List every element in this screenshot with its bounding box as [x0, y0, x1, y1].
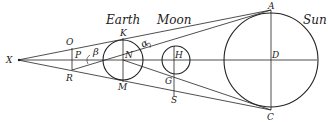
label-earth: Earth [105, 13, 140, 27]
label-sun: Sun [303, 13, 327, 27]
label-k: K [119, 28, 128, 38]
point-x-marker [18, 59, 20, 61]
label-r: R [65, 73, 73, 83]
upper-tangent-line [18, 10, 271, 60]
label-n: N [124, 50, 134, 60]
label-d: D [271, 50, 279, 60]
label-m: M [117, 82, 128, 92]
label-p: P [74, 50, 82, 60]
label-beta: β [92, 46, 99, 57]
diagram-canvas: X O P R β α K N M H G S A D C Earth Moon… [0, 0, 328, 122]
beta-angle-arc [87, 55, 90, 64]
label-c: C [267, 112, 274, 122]
label-o: O [66, 37, 74, 47]
label-s: S [171, 95, 177, 105]
label-x: X [5, 55, 13, 65]
label-h: H [174, 50, 183, 60]
label-moon: Moon [156, 13, 191, 27]
label-g: G [165, 76, 172, 86]
label-a: A [267, 1, 275, 11]
earth-moon-sun-diagram: X O P R β α K N M H G S A D C Earth Moon… [0, 0, 328, 122]
